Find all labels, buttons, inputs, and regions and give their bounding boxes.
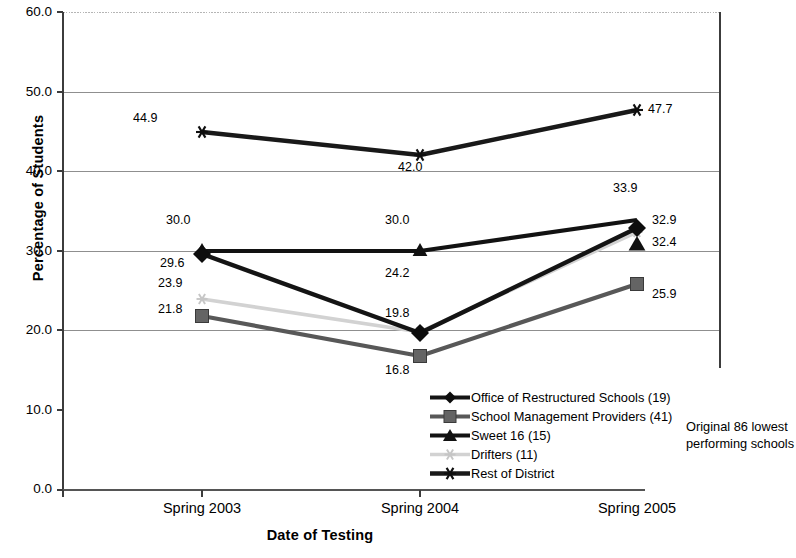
data-label-rest-2004: 42.0	[398, 160, 422, 174]
series-drifters	[197, 227, 643, 337]
data-label-rest-2005: 47.7	[648, 102, 672, 116]
series-school-management-providers	[196, 278, 644, 363]
legend-label: School Management Providers (41)	[471, 408, 672, 425]
legend-marker-triangle-icon	[429, 427, 471, 444]
axis-ticks	[57, 12, 420, 497]
data-label-drifters-2004: 24.2	[385, 266, 409, 280]
data-label-smp-2005: 25.9	[652, 287, 676, 301]
data-label-smp-2003: 21.8	[158, 302, 182, 316]
legend-label: Rest of District	[471, 465, 554, 482]
legend-item-office-of-restructured-schools[interactable]: Office of Restructured Schools (19)	[429, 388, 689, 407]
legend-marker-star-icon	[429, 465, 471, 482]
legend-item-rest-of-district[interactable]: Rest of District	[429, 464, 689, 483]
data-label-smp-2004: 16.8	[385, 363, 409, 377]
legend-item-sweet-16[interactable]: Sweet 16 (15)	[429, 426, 689, 445]
legend-label: Drifters (11)	[471, 446, 538, 463]
legend-item-school-management-providers[interactable]: School Management Providers (41)	[429, 407, 689, 426]
data-label-ors-2004: 19.8	[385, 306, 409, 320]
data-label-ors-2003: 29.6	[160, 256, 184, 270]
series-office-of-restructured-schools	[193, 219, 646, 342]
series-rest-of-district	[196, 104, 643, 160]
chart-legend: Office of Restructured Schools (19) Scho…	[429, 388, 689, 483]
data-label-sweet16-2004: 30.0	[385, 213, 409, 227]
data-label-sweet16-2003: 30.0	[166, 213, 190, 227]
legend-label: Sweet 16 (15)	[471, 427, 551, 444]
legend-brace-note: Original 86 lowest performing schools	[686, 419, 794, 452]
legend-marker-diamond-icon	[429, 389, 471, 406]
data-label-ors-2005: 32.9	[652, 213, 676, 227]
legend-item-drifters[interactable]: Drifters (11)	[429, 445, 689, 464]
data-label-rest-2003: 44.9	[133, 111, 157, 125]
legend-marker-asterisk-icon	[429, 446, 471, 463]
data-label-drifters-2003: 23.9	[158, 276, 182, 290]
data-label-sweet16-2005: 33.9	[613, 181, 637, 195]
legend-label: Office of Restructured Schools (19)	[471, 389, 671, 406]
legend-brace-note-line2: performing schools	[686, 436, 794, 453]
data-label-drifters-2005: 32.4	[652, 235, 676, 249]
chart-canvas: Percentage of Students 60.0 50.0 40.0 30…	[0, 0, 796, 558]
legend-marker-square-icon	[429, 408, 471, 425]
legend-brace-note-line1: Original 86 lowest	[686, 419, 794, 436]
